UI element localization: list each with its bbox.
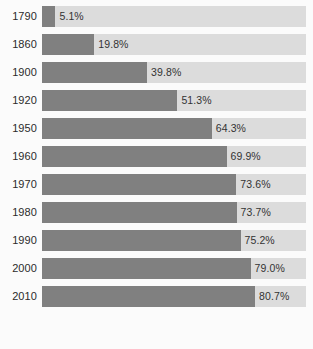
bar-track: 64.3% (42, 118, 306, 139)
bar-fill (42, 174, 236, 195)
bar-row: 192051.3% (0, 90, 306, 111)
category-label: 2010 (0, 286, 37, 307)
bar-fill (42, 118, 212, 139)
bar-track: 75.2% (42, 230, 306, 251)
bar-fill (42, 34, 94, 55)
bar-value-label: 5.1% (55, 6, 83, 27)
bar-value-label: 75.2% (241, 230, 275, 251)
category-label: 1790 (0, 6, 37, 27)
bar-row: 200079.0% (0, 258, 306, 279)
bar-track: 69.9% (42, 146, 306, 167)
bar-row: 195064.3% (0, 118, 306, 139)
bar-fill (42, 90, 177, 111)
bar-row: 197073.6% (0, 174, 306, 195)
category-label: 1950 (0, 118, 37, 139)
bar-track: 79.0% (42, 258, 306, 279)
bar-row: 17905.1% (0, 6, 306, 27)
bar-row: 196069.9% (0, 146, 306, 167)
bar-track: 73.7% (42, 202, 306, 223)
bar-value-label: 73.7% (237, 202, 271, 223)
bar-fill (42, 62, 147, 83)
bar-fill (42, 6, 55, 27)
category-label: 1920 (0, 90, 37, 111)
category-label: 2000 (0, 258, 37, 279)
bar-fill (42, 230, 241, 251)
category-label: 1960 (0, 146, 37, 167)
category-label: 1970 (0, 174, 37, 195)
bar-track: 80.7% (42, 286, 306, 307)
bar-row: 190039.8% (0, 62, 306, 83)
bar-chart: 17905.1%186019.8%190039.8%192051.3%19506… (0, 0, 313, 349)
bar-row: 198073.7% (0, 202, 306, 223)
bar-row: 201080.7% (0, 286, 306, 307)
bar-value-label: 69.9% (227, 146, 261, 167)
bar-row: 186019.8% (0, 34, 306, 55)
category-label: 1980 (0, 202, 37, 223)
bar-fill (42, 202, 237, 223)
bar-value-label: 80.7% (255, 286, 289, 307)
bar-value-label: 19.8% (94, 34, 128, 55)
bar-value-label: 64.3% (212, 118, 246, 139)
bar-row: 199075.2% (0, 230, 306, 251)
category-label: 1900 (0, 62, 37, 83)
bar-track: 5.1% (42, 6, 306, 27)
bar-fill (42, 258, 251, 279)
category-label: 1990 (0, 230, 37, 251)
bar-track: 73.6% (42, 174, 306, 195)
bar-track: 51.3% (42, 90, 306, 111)
bar-fill (42, 146, 227, 167)
bar-value-label: 51.3% (177, 90, 211, 111)
bar-value-label: 79.0% (251, 258, 285, 279)
bar-fill (42, 286, 255, 307)
bar-value-label: 73.6% (236, 174, 270, 195)
bar-track: 19.8% (42, 34, 306, 55)
bar-track: 39.8% (42, 62, 306, 83)
bar-value-label: 39.8% (147, 62, 181, 83)
category-label: 1860 (0, 34, 37, 55)
